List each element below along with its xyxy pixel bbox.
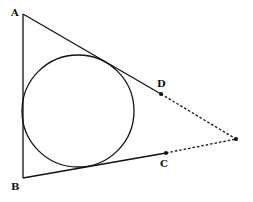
label-A: A [10, 7, 19, 18]
label-D: D [157, 78, 166, 89]
side-BC [23, 153, 166, 178]
point-D [159, 92, 163, 96]
extension-D [161, 94, 236, 139]
label-B: B [11, 181, 19, 192]
point-intersection [234, 137, 238, 141]
side-AD [23, 14, 161, 94]
inscribed-circle [22, 55, 134, 167]
extension-C [166, 139, 236, 153]
tangent-quadrilateral-diagram: A B C D [0, 0, 253, 202]
label-C: C [160, 158, 168, 169]
point-C [164, 151, 168, 155]
